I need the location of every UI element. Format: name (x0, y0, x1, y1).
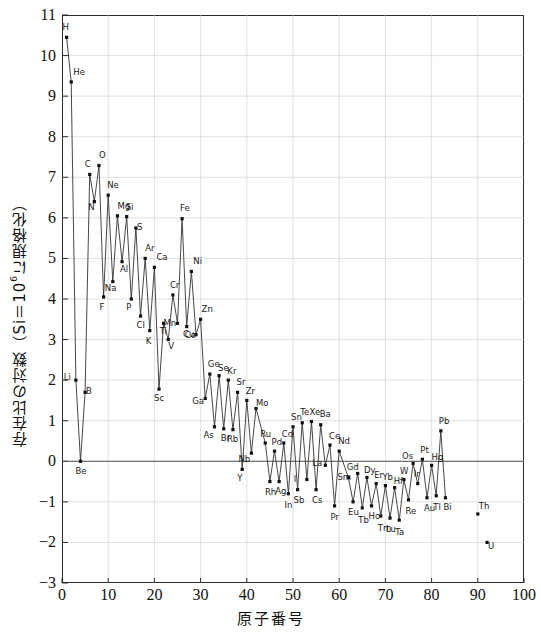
data-polyline (67, 37, 446, 520)
data-point (291, 425, 294, 428)
point-label-hg: Hg (432, 453, 444, 462)
point-label-al: Al (120, 265, 128, 274)
point-label-i: I (294, 475, 297, 484)
point-label-sc: Sc (154, 394, 164, 403)
y-tick-label: 0 (12, 453, 56, 469)
x-tick-label: 30 (181, 587, 221, 603)
data-point (157, 387, 160, 390)
data-point (439, 429, 442, 432)
data-point (245, 399, 248, 402)
data-point (416, 482, 419, 485)
data-point (213, 425, 216, 428)
data-point (324, 464, 327, 467)
data-point (144, 257, 147, 260)
point-label-fe: Fe (180, 204, 190, 213)
data-point (310, 420, 313, 423)
point-label-sb: Sb (294, 496, 305, 505)
data-point (305, 478, 308, 481)
data-point (430, 464, 433, 467)
data-point (227, 379, 230, 382)
data-point (241, 468, 244, 471)
point-label-f: F (100, 303, 105, 312)
y-tick-label: 11 (12, 7, 56, 23)
data-point (296, 488, 299, 491)
point-label-ti: Ti (160, 327, 167, 336)
x-tick-label: 60 (319, 587, 359, 603)
point-label-p: P (126, 303, 131, 312)
data-point (102, 295, 105, 298)
point-label-sm: Sm (337, 473, 351, 482)
point-label-ba: Ba (320, 410, 331, 419)
data-point (231, 428, 234, 431)
data-point (217, 374, 220, 377)
data-point (412, 462, 415, 465)
point-label-ca: Ca (156, 253, 167, 262)
data-point (319, 423, 322, 426)
point-label-pr: Pr (331, 513, 339, 522)
y-tick-label: −2 (12, 534, 56, 550)
y-tick-label: 1 (12, 413, 56, 429)
point-label-nb: Nb (238, 455, 250, 464)
point-label-ga: Ga (192, 397, 204, 406)
chart-root: 存在比の対数（Si＝106に規格化） −3−2−101234567891011 … (0, 0, 541, 641)
point-label-yb: Yb (382, 473, 393, 482)
point-label-k: K (146, 337, 152, 346)
data-point (120, 260, 123, 263)
chart-svg (0, 0, 541, 641)
y-tick-label: −1 (12, 494, 56, 510)
point-label-cs: Cs (312, 496, 322, 505)
data-point (190, 270, 193, 273)
data-point (65, 36, 68, 39)
y-tick-label: 9 (12, 88, 56, 104)
point-label-pb: Pb (439, 417, 450, 426)
point-label-o: O (99, 151, 106, 160)
y-tick-label: 3 (12, 332, 56, 348)
point-label-zr: Zr (246, 387, 255, 396)
data-point (425, 496, 428, 499)
point-label-ir: Ir (414, 470, 420, 479)
data-point (107, 194, 110, 197)
data-point (139, 314, 142, 317)
data-point (365, 476, 368, 479)
data-point (153, 266, 156, 269)
x-tick-label: 50 (273, 587, 313, 603)
point-label-kr: Kr (227, 367, 236, 376)
data-point (282, 441, 285, 444)
point-label-b: B (86, 387, 92, 396)
point-label-pd: Pd (272, 438, 283, 447)
point-label-as: As (203, 431, 213, 440)
point-label-th: Th (479, 502, 490, 511)
y-tick-label: 6 (12, 210, 56, 226)
data-point (236, 391, 239, 394)
point-label-u: U (488, 542, 494, 551)
data-point (148, 329, 151, 332)
data-point (250, 452, 253, 455)
x-axis-label: 原子番号 (0, 607, 541, 628)
point-label-ho: Ho (369, 512, 381, 521)
y-tick-label: 8 (12, 129, 56, 145)
point-label-ni: Ni (193, 257, 202, 266)
point-label-tl: Tl (433, 503, 441, 512)
point-label-w: W (400, 467, 408, 476)
data-point (74, 379, 77, 382)
point-label-n: N (88, 203, 94, 212)
data-point (88, 173, 91, 176)
point-label-li: Li (64, 373, 71, 382)
y-tick-label: 5 (12, 250, 56, 266)
data-point (375, 482, 378, 485)
point-label-cd: Cd (282, 430, 293, 439)
data-point (398, 519, 401, 522)
point-label-ru: Ru (260, 430, 271, 439)
data-point (273, 450, 276, 453)
data-point (476, 512, 479, 515)
data-point (407, 498, 410, 501)
data-point (356, 472, 359, 475)
data-point (351, 500, 354, 503)
data-point (287, 492, 290, 495)
data-point (185, 325, 188, 328)
x-tick-label: 90 (458, 587, 498, 603)
data-point (393, 486, 396, 489)
point-label-mo: Mo (256, 399, 269, 408)
point-label-tb: Tb (358, 516, 369, 525)
data-point (79, 460, 82, 463)
